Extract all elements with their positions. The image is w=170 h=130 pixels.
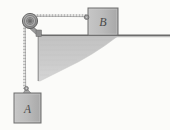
block-a-label: A	[23, 103, 32, 115]
diagram-canvas: B A	[0, 0, 170, 130]
pulley-wheel	[22, 13, 37, 28]
pulley-axle	[29, 20, 31, 22]
block-a-eyelet-hole	[26, 88, 28, 90]
cord-vertical-segment	[23, 24, 26, 89]
block-b-eyelet	[84, 15, 89, 20]
block-b-label: B	[99, 15, 107, 29]
cord-horizontal-segment	[30, 14, 88, 17]
physics-diagram: B A	[0, 0, 170, 130]
resting-block-b: B	[84, 8, 118, 35]
